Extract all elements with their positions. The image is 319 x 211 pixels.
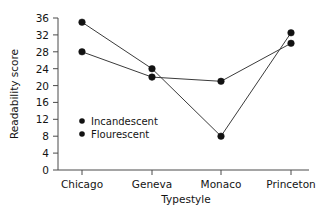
- x-tick-label-chicago: Chicago: [61, 178, 103, 190]
- y-axis-title: Readability score: [8, 49, 20, 139]
- y-axis-ticks: [53, 18, 58, 170]
- data-point-incandescent-monaco: [218, 78, 225, 85]
- data-point-incandescent-princeton: [288, 40, 295, 47]
- data-point-flourescent-chicago: [79, 19, 86, 26]
- series-line-incandescent: [82, 43, 291, 81]
- x-axis-ticks: [82, 170, 291, 175]
- legend-marker-flourescent: [79, 131, 85, 137]
- x-tick-label-monaco: Monaco: [201, 178, 242, 190]
- y-tick-label-24: 24: [36, 63, 50, 75]
- y-tick-label-12: 12: [36, 113, 49, 125]
- legend-marker-incandescent: [79, 118, 85, 124]
- x-axis-title: Typestyle: [160, 193, 210, 205]
- y-tick-label-16: 16: [36, 96, 50, 108]
- y-tick-label-8: 8: [42, 130, 49, 142]
- y-tick-label-20: 20: [36, 80, 49, 92]
- chart-container: 36 32 28 24 20 16 12 8 4 0 Chicago Genev…: [0, 0, 319, 211]
- data-point-flourescent-princeton: [288, 30, 295, 37]
- x-tick-label-princeton: Princeton: [266, 178, 315, 190]
- data-point-incandescent-chicago: [79, 49, 86, 56]
- line-chart: 36 32 28 24 20 16 12 8 4 0 Chicago Genev…: [0, 0, 319, 211]
- y-tick-label-0: 0: [42, 164, 49, 176]
- legend-label-incandescent: Incandescent: [91, 116, 158, 127]
- y-tick-label-36: 36: [36, 12, 50, 24]
- data-point-flourescent-monaco: [218, 133, 225, 140]
- y-tick-label-32: 32: [36, 29, 49, 41]
- data-point-flourescent-geneva: [149, 65, 156, 72]
- legend-label-flourescent: Flourescent: [91, 129, 149, 140]
- x-tick-label-geneva: Geneva: [132, 178, 172, 190]
- y-tick-label-4: 4: [42, 147, 49, 159]
- y-tick-label-28: 28: [36, 46, 49, 58]
- data-point-incandescent-geneva: [149, 74, 156, 81]
- chart-legend: Incandescent Flourescent: [79, 116, 158, 140]
